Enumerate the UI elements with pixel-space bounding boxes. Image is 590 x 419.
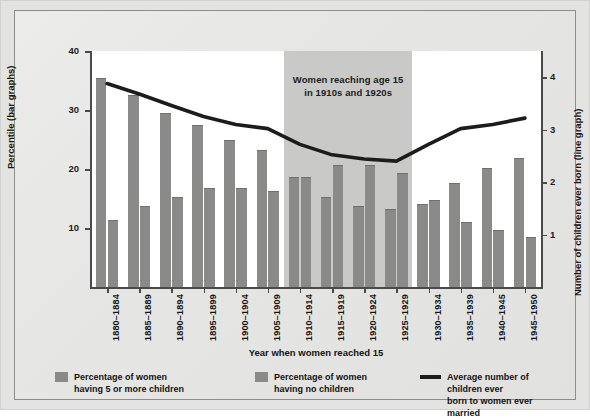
x-axis-tick bbox=[396, 288, 398, 293]
legend-label-line1: Average number of children ever bbox=[447, 371, 555, 395]
y-axis-right-tick-label: 1 bbox=[550, 229, 572, 240]
x-axis-tick-label: 1935–1939 bbox=[465, 294, 475, 341]
legend-item: Percentage of womenhaving no children bbox=[255, 371, 367, 395]
x-axis-tick bbox=[525, 288, 527, 293]
x-axis-tick bbox=[107, 288, 109, 293]
x-axis-tick-label: 1940–1945 bbox=[497, 294, 507, 341]
y-axis-left-tick-label: 20 bbox=[57, 163, 79, 174]
y-axis-left-tick bbox=[85, 228, 91, 230]
x-axis-tick bbox=[268, 288, 270, 293]
x-axis-tick-label: 1930–1934 bbox=[433, 294, 443, 341]
y-axis-right-title: Number of children ever born (line graph… bbox=[572, 109, 583, 296]
legend-label-line1: Percentage of women bbox=[274, 371, 367, 383]
y-axis-right-tick bbox=[541, 77, 547, 79]
y-axis-left-tick-label: 30 bbox=[57, 104, 79, 115]
x-axis-tick bbox=[461, 288, 463, 293]
x-axis-tick bbox=[204, 288, 206, 293]
x-axis-tick-label: 1880–1884 bbox=[111, 294, 121, 341]
average-children-line bbox=[107, 84, 525, 162]
x-axis-tick bbox=[300, 288, 302, 293]
legend-label-line2: having no children bbox=[274, 383, 367, 395]
y-axis-left-tick bbox=[85, 51, 91, 53]
y-axis-right-tick bbox=[541, 182, 547, 184]
x-axis-tick bbox=[364, 288, 366, 293]
legend-label-line2: having 5 or more children bbox=[74, 383, 184, 395]
legend-bar-swatch-icon bbox=[255, 372, 268, 382]
y-axis-right-line bbox=[541, 51, 543, 288]
y-axis-right-tick-label: 4 bbox=[550, 71, 572, 82]
x-axis-tick-label: 1885–1889 bbox=[143, 294, 153, 341]
y-axis-left-tick bbox=[85, 169, 91, 171]
y-axis-left-tick bbox=[85, 110, 91, 112]
x-axis-line bbox=[90, 287, 543, 289]
line-series-layer bbox=[91, 51, 541, 287]
chart-legend: Percentage of womenhaving 5 or more chil… bbox=[55, 371, 555, 407]
x-axis-tick-label: 1945–1950 bbox=[529, 294, 539, 341]
x-axis-tick-label: 1920–1924 bbox=[368, 294, 378, 341]
plot-area: Women reaching age 15 in 1910s and 1920s bbox=[91, 51, 541, 287]
y-axis-right-tick bbox=[541, 235, 547, 237]
y-axis-left-tick-label: 10 bbox=[57, 222, 79, 233]
legend-label-line2: born to women ever married bbox=[447, 395, 555, 419]
legend-line-swatch-icon bbox=[420, 375, 441, 379]
y-axis-right-tick bbox=[541, 130, 547, 132]
y-axis-right-tick-label: 2 bbox=[550, 176, 572, 187]
x-axis-tick-label: 1925–1929 bbox=[400, 294, 410, 341]
legend-bar-swatch-icon bbox=[55, 372, 68, 382]
legend-label-line1: Percentage of women bbox=[74, 371, 184, 383]
legend-label: Average number of children everborn to w… bbox=[447, 371, 555, 419]
x-axis-tick bbox=[429, 288, 431, 293]
legend-label: Percentage of womenhaving no children bbox=[274, 371, 367, 395]
x-axis-tick-label: 1900–1904 bbox=[240, 294, 250, 341]
x-axis-tick bbox=[236, 288, 238, 293]
x-axis-tick bbox=[493, 288, 495, 293]
x-axis-tick bbox=[139, 288, 141, 293]
x-axis-tick-label: 1890–1894 bbox=[175, 294, 185, 341]
x-axis-tick bbox=[171, 288, 173, 293]
chart-frame: Women reaching age 15 in 1910s and 1920s… bbox=[14, 10, 576, 400]
x-axis-tick bbox=[332, 288, 334, 293]
x-axis-title: Year when women reached 15 bbox=[91, 347, 541, 358]
legend-item: Percentage of womenhaving 5 or more chil… bbox=[55, 371, 184, 395]
x-axis-tick-label: 1905–1909 bbox=[272, 294, 282, 341]
y-axis-right-tick-label: 3 bbox=[550, 124, 572, 135]
legend-label: Percentage of womenhaving 5 or more chil… bbox=[74, 371, 184, 395]
y-axis-left-tick-label: 40 bbox=[57, 45, 79, 56]
x-axis-tick-label: 1915–1919 bbox=[336, 294, 346, 341]
x-axis-tick-label: 1895–1899 bbox=[208, 294, 218, 341]
legend-item: Average number of children everborn to w… bbox=[420, 371, 555, 419]
x-axis-tick-label: 1910–1914 bbox=[304, 294, 314, 341]
y-axis-left-title: Percentile (bar graphs) bbox=[5, 66, 16, 169]
